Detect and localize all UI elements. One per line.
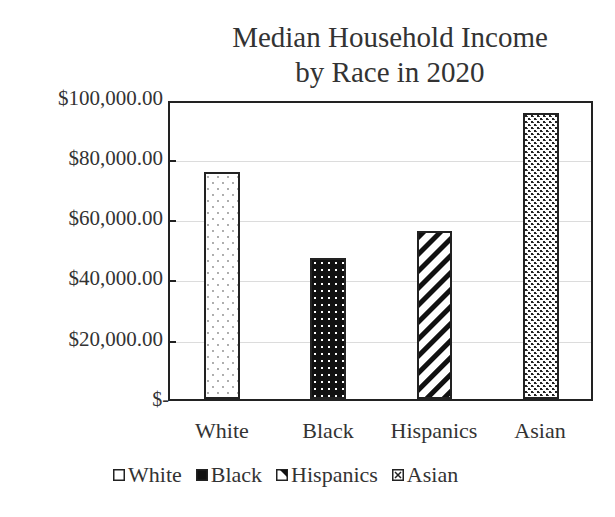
legend-item-black: Black xyxy=(196,462,262,488)
y-axis-tick xyxy=(170,341,176,343)
x-label-black: Black xyxy=(273,418,383,444)
legend-swatch-black xyxy=(196,469,208,481)
y-axis-tick xyxy=(170,160,176,162)
y-tick-label-80000: $80,000.00 xyxy=(69,146,164,171)
bar-white xyxy=(204,172,240,399)
y-tick-label-0: $- xyxy=(152,388,169,411)
y-tick-label-40000: $40,000.00 xyxy=(69,266,164,291)
bar-black xyxy=(310,258,346,399)
legend-swatch-hispanics xyxy=(276,469,288,481)
legend-item-asian: Asian xyxy=(392,462,458,488)
legend: White Black Hispanics Asian xyxy=(113,462,472,488)
legend-swatch-asian xyxy=(392,469,404,481)
x-label-asian: Asian xyxy=(485,418,595,444)
chart-title-line-2: by Race in 2020 xyxy=(170,55,610,89)
legend-item-white: White xyxy=(113,462,182,488)
x-label-hispanics: Hispanics xyxy=(379,418,489,444)
legend-label-white: White xyxy=(128,462,182,488)
legend-label-hispanics: Hispanics xyxy=(291,462,378,488)
plot-area xyxy=(168,101,593,401)
legend-swatch-white xyxy=(113,469,125,481)
legend-label-black: Black xyxy=(211,462,262,488)
y-axis-tick xyxy=(170,280,176,282)
chart-title-line-1: Median Household Income xyxy=(170,20,610,54)
y-tick-label-60000: $60,000.00 xyxy=(69,206,164,231)
x-label-white: White xyxy=(167,418,277,444)
legend-item-hispanics: Hispanics xyxy=(276,462,378,488)
y-axis-tick xyxy=(170,220,176,222)
bar-hispanics xyxy=(417,231,452,399)
bar-asian xyxy=(523,113,559,399)
y-tick-label-100000: $100,000.00 xyxy=(58,86,163,111)
legend-label-asian: Asian xyxy=(407,462,458,488)
y-tick-label-20000: $20,000.00 xyxy=(69,327,164,352)
